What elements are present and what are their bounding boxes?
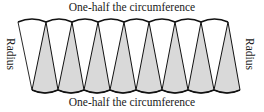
left-radius-edge bbox=[18, 22, 32, 90]
top-arc bbox=[149, 19, 175, 22]
top-arc bbox=[98, 19, 124, 22]
sector-up bbox=[58, 22, 84, 93]
sector-up bbox=[136, 22, 162, 93]
top-arc bbox=[72, 19, 98, 22]
top-arc bbox=[46, 19, 72, 22]
top-arc bbox=[201, 19, 228, 22]
sector-up bbox=[214, 22, 240, 93]
sector-group bbox=[32, 22, 240, 93]
sector-up bbox=[32, 22, 58, 93]
top-arc bbox=[18, 19, 46, 22]
sector-up bbox=[84, 22, 110, 93]
sector-up bbox=[162, 22, 188, 93]
top-arc bbox=[124, 19, 149, 22]
sector-up bbox=[110, 22, 136, 93]
rearranged-circle-sectors-diagram bbox=[0, 0, 264, 112]
sector-up bbox=[188, 22, 214, 93]
top-arc bbox=[175, 19, 201, 22]
